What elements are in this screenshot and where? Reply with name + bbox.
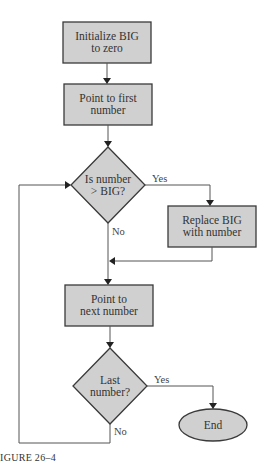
arrow-head-icon xyxy=(104,141,112,147)
node-last-line-2: number? xyxy=(73,386,147,398)
edge-last-yes xyxy=(147,386,213,404)
node-replace-line-2: with number xyxy=(168,226,256,238)
node-point-next-line-1: Point to xyxy=(65,293,153,305)
arrow-head-icon xyxy=(209,403,217,409)
arrow-head-icon xyxy=(109,257,115,265)
node-end-line-1: End xyxy=(179,419,247,431)
node-init-line-1: Initialize BIG xyxy=(63,30,151,42)
arrow-head-icon xyxy=(206,200,214,206)
node-end-label: End xyxy=(179,419,247,431)
node-compare-label: Is number > BIG? xyxy=(71,173,145,197)
node-compare-line-1: Is number xyxy=(71,173,145,185)
node-last-label: Last number? xyxy=(73,374,147,398)
node-init-label: Initialize BIG to zero xyxy=(63,30,151,54)
node-point-first-label: Point to first number xyxy=(64,92,152,116)
edge-label-compare-no: No xyxy=(112,226,125,237)
arrow-head-icon xyxy=(103,78,111,84)
node-compare-line-2: > BIG? xyxy=(71,185,145,197)
node-point-first-line-2: number xyxy=(64,104,152,116)
figure-caption: IGURE 26–4 xyxy=(0,452,56,463)
edge-label-last-no: No xyxy=(114,426,127,437)
edge-compare-yes xyxy=(145,185,210,201)
node-point-next-label: Point to next number xyxy=(65,293,153,317)
arrow-head-icon xyxy=(106,342,114,348)
edge-label-last-yes: Yes xyxy=(154,374,169,385)
node-replace-line-1: Replace BIG xyxy=(168,214,256,226)
arrow-head-icon xyxy=(104,279,112,285)
edge-replace-merge xyxy=(114,247,212,261)
node-replace-label: Replace BIG with number xyxy=(168,214,256,238)
edge-label-compare-yes: Yes xyxy=(152,173,167,184)
node-init-line-2: to zero xyxy=(63,42,151,54)
node-point-first-line-1: Point to first xyxy=(64,92,152,104)
node-last-line-1: Last xyxy=(73,374,147,386)
node-point-next-line-2: next number xyxy=(65,305,153,317)
